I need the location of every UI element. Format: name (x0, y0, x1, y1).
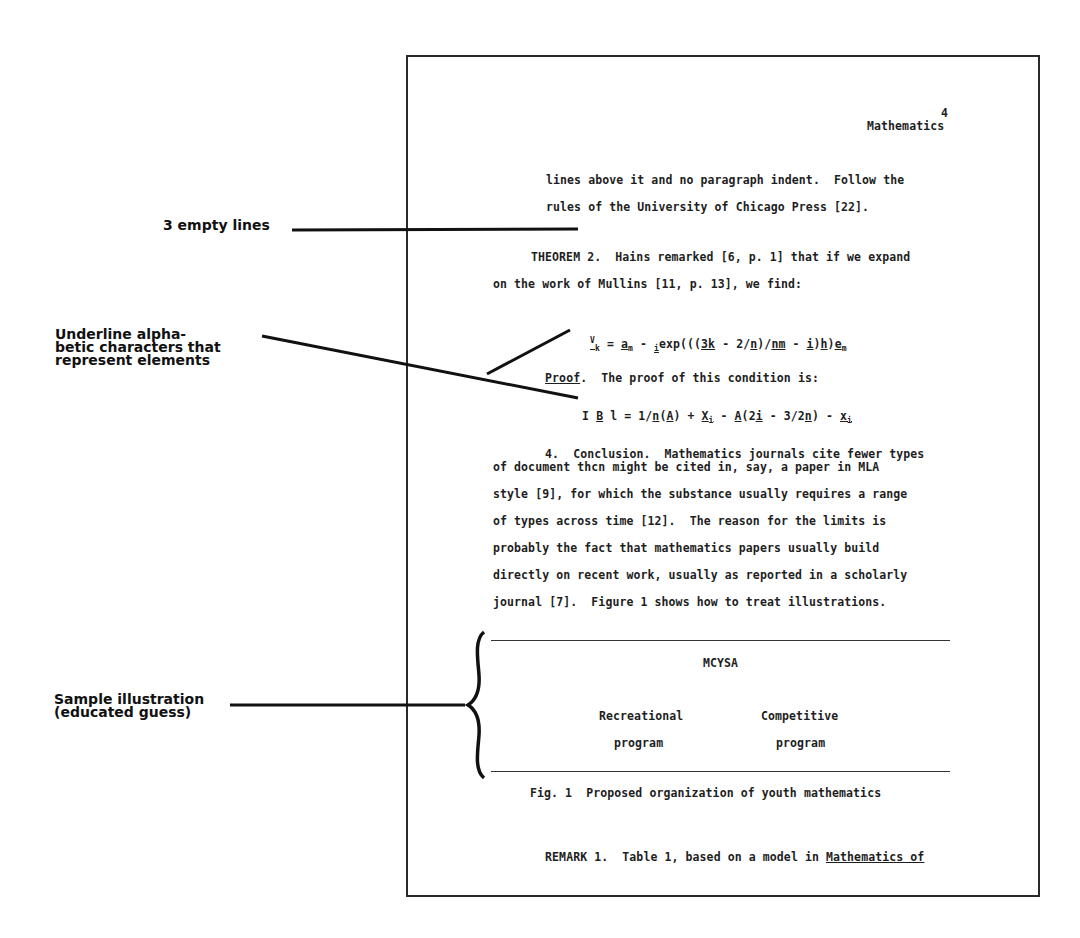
pointer-line-underline-main (262, 336, 578, 398)
curly-brace-icon (468, 632, 484, 778)
pointer-line-underline-branch (487, 330, 570, 374)
pointer-line-empty-lines (292, 229, 578, 230)
annotation-pointers (0, 0, 1080, 938)
